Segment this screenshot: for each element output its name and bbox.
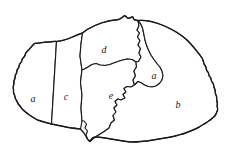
map-svg-canvas <box>0 0 228 163</box>
region-map-diagram: a c d e a b <box>0 0 228 163</box>
region-label-e: e <box>109 91 113 101</box>
region-label-d: d <box>102 45 107 55</box>
region-label-a-inner: a <box>152 71 157 81</box>
region-label-c: c <box>64 92 68 102</box>
region-a-left-shape[interactable] <box>13 41 56 124</box>
region-label-b: b <box>176 100 181 110</box>
region-c-shape[interactable] <box>52 33 83 129</box>
regions-group <box>13 16 218 142</box>
region-label-a-left: a <box>31 94 36 104</box>
